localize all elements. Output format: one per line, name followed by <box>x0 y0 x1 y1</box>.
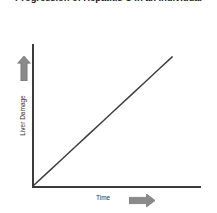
y-axis-label: Liver Damage <box>19 85 26 147</box>
right-arrow-icon <box>129 193 155 206</box>
plot-area <box>33 44 200 187</box>
x-axis-line <box>32 186 201 188</box>
y-axis-line <box>32 44 34 188</box>
hepatitis-c-progression-figure: Progression of Hepatitis C in an Individ… <box>0 0 217 213</box>
x-axis-label: Time <box>96 194 110 201</box>
chart-title: Progression of Hepatitis C in an Individ… <box>0 0 217 3</box>
up-arrow-icon <box>17 56 31 81</box>
